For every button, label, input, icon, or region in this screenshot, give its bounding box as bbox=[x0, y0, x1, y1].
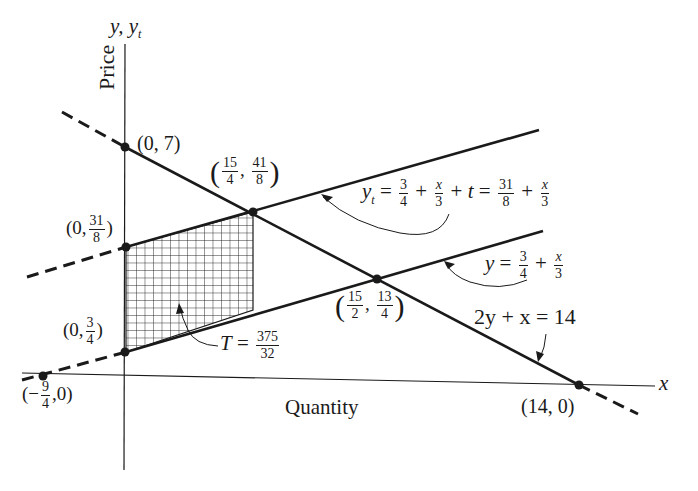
y-axis bbox=[124, 44, 125, 470]
denominator: 4 bbox=[380, 306, 389, 321]
denominator: 4 bbox=[399, 194, 408, 209]
numerator: 3 bbox=[86, 316, 95, 332]
close-paren: ) bbox=[395, 289, 405, 322]
denominator: 8 bbox=[255, 172, 264, 187]
eq-lhs: y bbox=[485, 251, 494, 275]
y-axis-label: y, yt bbox=[110, 16, 141, 40]
denominator: 3 bbox=[554, 266, 563, 281]
numerator: x bbox=[554, 250, 562, 266]
label-prefix: (0, bbox=[63, 319, 84, 340]
open-paren: ( bbox=[335, 289, 345, 322]
numerator: 15 bbox=[222, 156, 238, 172]
denominator: 4 bbox=[519, 266, 528, 281]
y-axis-title: Price bbox=[96, 45, 118, 90]
fraction: 34 bbox=[519, 250, 528, 281]
open-paren: ( bbox=[210, 155, 220, 188]
eq-lhs: T bbox=[220, 331, 232, 355]
equation-supply: y = 34 + x3 bbox=[485, 250, 565, 281]
numerator: x bbox=[435, 178, 443, 194]
y-arrowhead-icon bbox=[444, 261, 455, 269]
equation-demand: 2y + x = 14 bbox=[474, 306, 576, 328]
fraction: x3 bbox=[434, 178, 443, 209]
point-0-31-8 bbox=[122, 243, 131, 252]
point-0-3-4 bbox=[121, 348, 130, 357]
fraction-y: 418 bbox=[252, 156, 268, 187]
label-suffix: ,0) bbox=[52, 383, 73, 404]
denominator: 3 bbox=[540, 194, 549, 209]
denominator: 2 bbox=[351, 306, 360, 321]
label-point-0-3-4: (0,34) bbox=[63, 316, 103, 347]
fraction: x3 bbox=[540, 178, 549, 209]
numerator: 31 bbox=[89, 214, 105, 230]
fraction: 37532 bbox=[256, 330, 279, 361]
eq-plus: + bbox=[410, 179, 432, 203]
y-axis-label-sub: t bbox=[138, 27, 141, 41]
denominator: 3 bbox=[434, 194, 443, 209]
label-suffix: ) bbox=[97, 319, 103, 340]
fraction: x3 bbox=[554, 250, 563, 281]
taxed-supply-line-dashed bbox=[27, 247, 126, 277]
fraction: 318 bbox=[498, 178, 514, 209]
label-point-0-7: (0, 7) bbox=[137, 133, 180, 153]
denominator: 32 bbox=[260, 346, 276, 361]
point-14-0 bbox=[575, 381, 584, 390]
numerator: 41 bbox=[252, 156, 268, 172]
eq-plus: + bbox=[445, 179, 467, 203]
eq-plus: + bbox=[530, 251, 552, 275]
x-axis-label: x bbox=[659, 373, 668, 394]
yt-arrowhead-icon bbox=[321, 194, 333, 202]
numerator: 375 bbox=[256, 330, 279, 346]
equation-tax-revenue: T = 37532 bbox=[220, 330, 281, 361]
fraction: 94 bbox=[41, 380, 50, 411]
fraction-x: 152 bbox=[347, 290, 363, 321]
eq-plus: + bbox=[516, 179, 538, 203]
eq-equals: = bbox=[494, 251, 516, 275]
eq-equals: = bbox=[375, 179, 397, 203]
label-point-0-31-8: (0,318) bbox=[66, 214, 113, 245]
label-suffix: ) bbox=[107, 217, 113, 238]
fraction-y: 134 bbox=[377, 290, 393, 321]
numerator: 15 bbox=[347, 290, 363, 306]
eq-equals: = bbox=[474, 179, 496, 203]
label-point-neg-9-4-0: (−94,0) bbox=[22, 380, 73, 411]
demand-line-dashed-left bbox=[62, 112, 125, 147]
label-prefix: (− bbox=[22, 383, 39, 404]
close-paren: ) bbox=[270, 155, 280, 188]
eq-equals: = bbox=[232, 331, 254, 355]
denominator: 8 bbox=[92, 230, 101, 245]
fraction: 34 bbox=[399, 178, 408, 209]
label-prefix: (0, bbox=[66, 217, 87, 238]
x-axis-title: Quantity bbox=[285, 397, 359, 418]
supply-line-dashed bbox=[22, 352, 126, 380]
numerator: 13 bbox=[377, 290, 393, 306]
numerator: x bbox=[541, 178, 549, 194]
equation-taxed-supply: yt = 34 + x3 + t = 318 + x3 bbox=[362, 178, 551, 209]
fraction-x: 154 bbox=[222, 156, 238, 187]
point-15-2-13-4 bbox=[373, 275, 382, 284]
label-point-15-4-41-8: (154, 418) bbox=[210, 156, 280, 187]
numerator: 3 bbox=[519, 250, 528, 266]
label-point-15-2-13-4: (152, 134) bbox=[335, 290, 405, 321]
numerator: 31 bbox=[498, 178, 514, 194]
denominator: 4 bbox=[226, 172, 235, 187]
point-0-7 bbox=[121, 143, 130, 152]
fraction: 318 bbox=[89, 214, 105, 245]
denominator: 8 bbox=[501, 194, 510, 209]
eq-lhs: y bbox=[362, 179, 371, 203]
numerator: 9 bbox=[41, 380, 50, 396]
label-point-14-0: (14, 0) bbox=[521, 396, 574, 416]
point-15-4-41-8 bbox=[249, 208, 258, 217]
denominator: 4 bbox=[86, 332, 95, 347]
numerator: 3 bbox=[399, 178, 408, 194]
y-axis-label-text: y, y bbox=[110, 14, 138, 38]
demand-line-dashed-right bbox=[579, 385, 638, 414]
fraction: 34 bbox=[86, 316, 95, 347]
denominator: 4 bbox=[41, 396, 50, 411]
